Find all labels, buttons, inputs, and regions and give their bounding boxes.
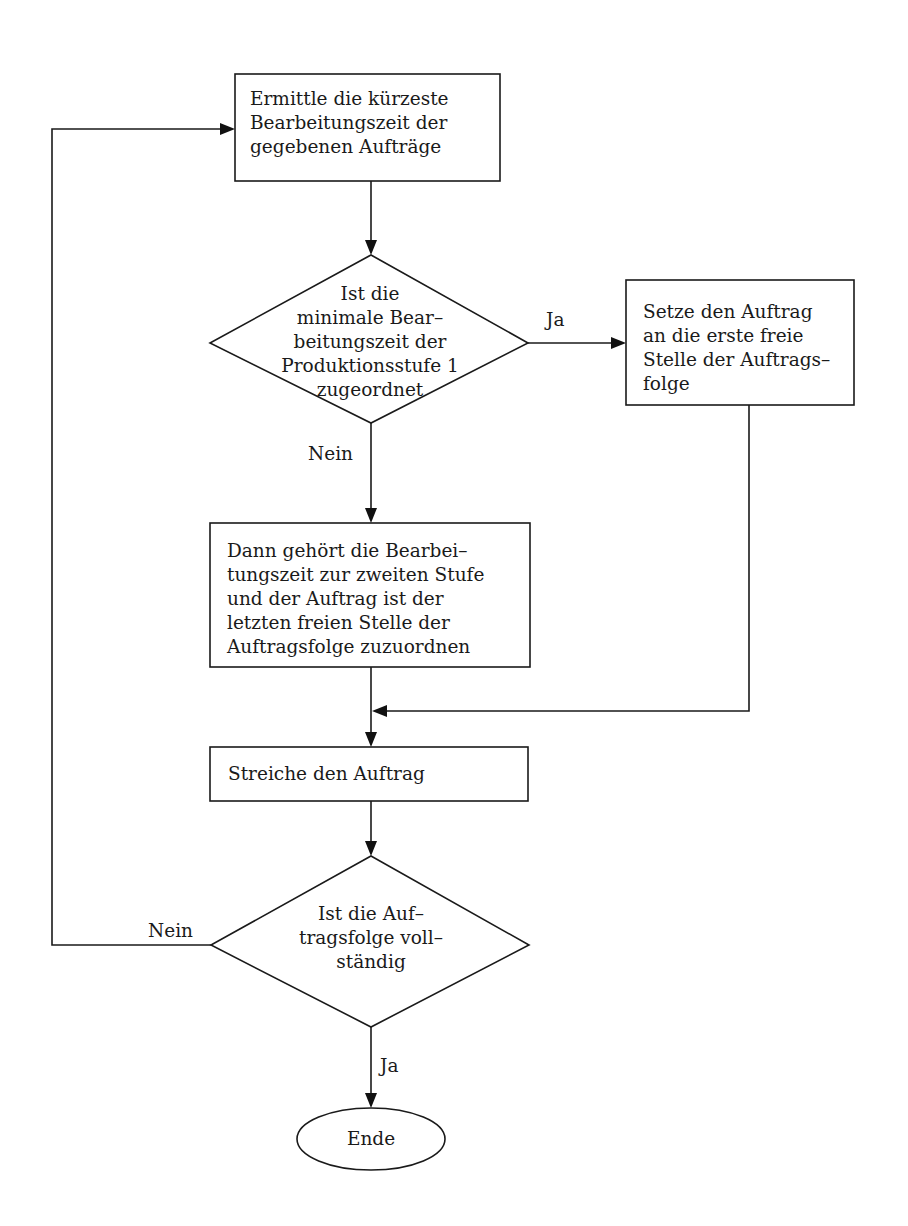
process-box-last-free-position: Dann gehört die Bearbei– tungszeit zur z… xyxy=(210,523,530,667)
svg-text:minimale Bear–: minimale Bear– xyxy=(297,307,443,328)
arrow-head-icon xyxy=(372,705,387,717)
svg-text:Ermittle die kürzeste: Ermittle die kürzeste xyxy=(250,88,449,109)
svg-text:beitungszeit der: beitungszeit der xyxy=(294,331,447,352)
svg-text:Dann gehört die Bearbei–: Dann gehört die Bearbei– xyxy=(227,540,468,561)
edge-label-d2-yes: Ja xyxy=(378,1055,398,1076)
svg-text:Ist die: Ist die xyxy=(341,283,400,304)
svg-text:Setze den Auftrag: Setze den Auftrag xyxy=(643,301,813,322)
svg-text:an die erste freie: an die erste freie xyxy=(643,325,804,346)
process-box-strike-order: Streiche den Auftrag xyxy=(210,747,528,801)
svg-text:tragsfolge voll–: tragsfolge voll– xyxy=(299,927,443,948)
svg-text:Ist die Auf–: Ist die Auf– xyxy=(318,903,424,924)
arrow-head-icon xyxy=(365,508,377,523)
svg-text:Auftragsfolge zuzuordnen: Auftragsfolge zuzuordnen xyxy=(226,636,470,657)
svg-text:und der Auftrag ist der: und der Auftrag ist der xyxy=(227,588,444,609)
arrow-head-icon xyxy=(611,337,626,349)
edge-label-d2-no: Nein xyxy=(148,920,193,941)
svg-text:Ende: Ende xyxy=(347,1128,395,1149)
svg-text:zugeordnet: zugeordnet xyxy=(317,379,424,400)
svg-text:gegebenen Aufträge: gegebenen Aufträge xyxy=(250,136,441,157)
edge-label-d1-yes: Ja xyxy=(544,309,564,330)
decision-diamond-stage-1: Ist die minimale Bear– beitungszeit der … xyxy=(210,255,528,423)
flowchart-canvas: Ermittle die kürzeste Bearbeitungszeit d… xyxy=(0,0,908,1226)
svg-text:Produktionsstufe 1: Produktionsstufe 1 xyxy=(281,355,459,376)
edge-decision2-no-loop xyxy=(52,129,223,945)
arrow-head-icon xyxy=(365,732,377,747)
svg-text:Bearbeitungszeit der: Bearbeitungszeit der xyxy=(250,112,447,133)
svg-text:ständig: ständig xyxy=(336,951,406,972)
arrow-head-icon xyxy=(365,240,377,255)
terminal-end: Ende xyxy=(297,1108,445,1170)
svg-text:letzten freien Stelle der: letzten freien Stelle der xyxy=(227,612,450,633)
svg-text:Streiche den Auftrag: Streiche den Auftrag xyxy=(228,763,425,784)
svg-text:Stelle der Auftrags–: Stelle der Auftrags– xyxy=(643,349,830,370)
arrow-head-icon xyxy=(365,841,377,856)
arrow-head-icon xyxy=(365,1093,377,1108)
process-box-first-free-position: Setze den Auftrag an die erste freie Ste… xyxy=(626,280,854,405)
process-box-find-shortest-time: Ermittle die kürzeste Bearbeitungszeit d… xyxy=(235,74,500,181)
decision-diamond-sequence-complete: Ist die Auf– tragsfolge voll– ständig xyxy=(211,856,529,1027)
svg-text:tungszeit zur zweiten Stufe: tungszeit zur zweiten Stufe xyxy=(227,564,484,585)
arrow-head-icon xyxy=(220,123,235,135)
edge-label-d1-no: Nein xyxy=(308,443,353,464)
svg-text:folge: folge xyxy=(643,373,690,394)
